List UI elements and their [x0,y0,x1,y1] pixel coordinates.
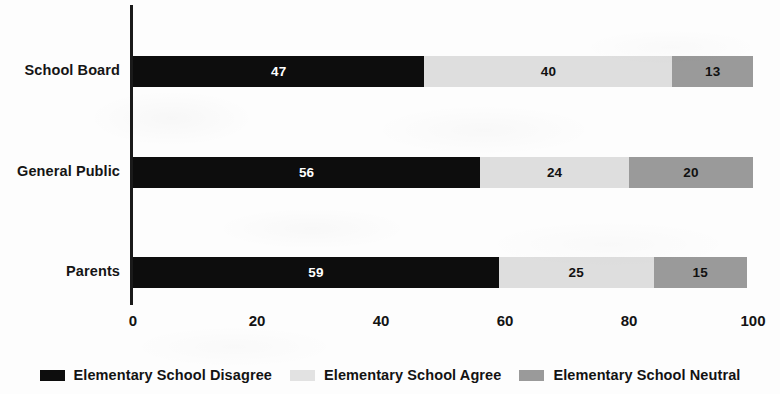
plot-area: 47 40 13 56 24 20 59 25 15 [133,5,753,305]
bar-row: 47 40 13 [133,56,753,87]
x-tick-label: 40 [373,312,390,329]
legend-swatch-icon [290,370,315,381]
legend-label: Elementary School Disagree [74,367,272,383]
bar-segment-neutral: 15 [654,257,747,288]
chart-legend: Elementary School Disagree Elementary Sc… [0,362,780,388]
legend-item-agree[interactable]: Elementary School Agree [290,367,501,383]
x-tick-label: 100 [740,312,765,329]
category-label-parents: Parents [0,263,120,279]
bar-segment-disagree: 56 [133,157,480,188]
category-label-school-board: School Board [0,62,120,78]
legend-item-neutral[interactable]: Elementary School Neutral [519,367,740,383]
x-tick-label: 80 [621,312,638,329]
bar-segment-disagree: 59 [133,257,499,288]
x-axis-ticks: 0 20 40 60 80 100 [133,312,753,336]
bar-segment-agree: 40 [424,56,672,87]
bar-segment-agree: 25 [499,257,654,288]
bar-segment-neutral: 20 [629,157,753,188]
legend-label: Elementary School Neutral [553,367,740,383]
x-tick-label: 0 [129,312,137,329]
legend-item-disagree[interactable]: Elementary School Disagree [40,367,272,383]
bar-row: 56 24 20 [133,157,753,188]
category-label-general-public: General Public [0,163,120,179]
bar-row: 59 25 15 [133,257,753,288]
bar-segment-disagree: 47 [133,56,424,87]
legend-label: Elementary School Agree [324,367,501,383]
legend-swatch-icon [519,370,544,381]
x-tick-label: 60 [497,312,514,329]
x-tick-label: 20 [249,312,266,329]
legend-swatch-icon [40,370,65,381]
bar-segment-neutral: 13 [672,56,753,87]
chart-container: School Board General Public Parents 47 4… [0,0,780,394]
bar-segment-agree: 24 [480,157,629,188]
category-axis: School Board General Public Parents [0,5,120,305]
